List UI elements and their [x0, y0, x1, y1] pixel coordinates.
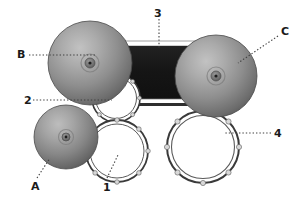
- sphere-c: [175, 35, 257, 117]
- ring-4: [164, 108, 241, 185]
- callout-label-2[interactable]: 2: [24, 95, 32, 106]
- sphere-b: [48, 21, 132, 105]
- technical-diagram: [0, 0, 299, 201]
- callout-label-4[interactable]: 4: [274, 128, 282, 139]
- callout-label-a[interactable]: A: [31, 181, 40, 192]
- diagram-canvas: B 3 C 2 4 A 1: [0, 0, 299, 201]
- sphere-a: [34, 105, 98, 169]
- callout-label-c[interactable]: C: [281, 26, 289, 37]
- callout-label-b[interactable]: B: [17, 49, 25, 60]
- callout-label-3[interactable]: 3: [154, 8, 162, 19]
- callout-label-1[interactable]: 1: [103, 182, 111, 193]
